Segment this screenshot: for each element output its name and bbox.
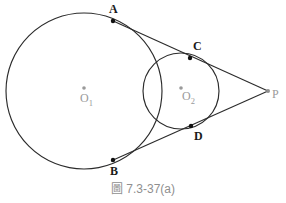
label-center-o1: O1 (80, 92, 93, 107)
point-marker-a (111, 19, 115, 23)
tangent-line-upper (111, 20, 268, 91)
point-marker-p (266, 89, 270, 93)
label-point-d: D (194, 130, 203, 142)
label-center-o2-base: O (182, 89, 191, 103)
label-point-p: P (272, 88, 279, 100)
geometry-diagram (0, 0, 286, 203)
point-marker-c (188, 56, 192, 60)
caption-cjk-glyph: 圖 (111, 182, 123, 196)
label-center-o2-subscript: 2 (191, 96, 195, 106)
center-marker-o1 (82, 86, 86, 90)
label-point-c: C (193, 40, 202, 52)
label-point-b: B (110, 165, 118, 177)
label-center-o2: O2 (182, 90, 195, 105)
figure-page: A C P D B O1 O2 圖 7.3-37(a) (0, 0, 286, 203)
label-center-o1-subscript: 1 (89, 98, 93, 108)
point-marker-b (111, 158, 115, 162)
figure-caption: 圖 7.3-37(a) (0, 182, 286, 196)
label-center-o1-base: O (80, 91, 89, 105)
point-marker-d (189, 124, 193, 128)
caption-number: 7.3-37(a) (126, 182, 175, 196)
label-point-a: A (109, 3, 118, 15)
